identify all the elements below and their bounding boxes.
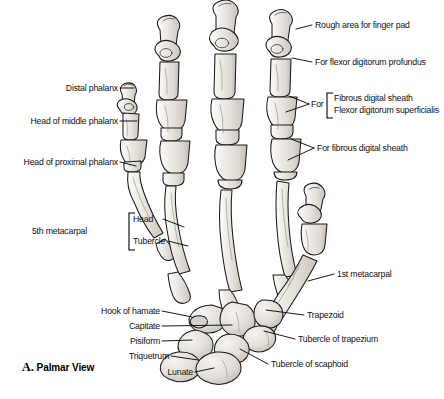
label-tubercle: Tubercle: [133, 236, 165, 247]
label-rough-area-for-finger-pad: Rough area for finger pad: [315, 20, 410, 31]
caption-text: Palmar View: [37, 362, 95, 373]
label-tubercle-of-scaphoid: Tubercle of scaphoid: [271, 359, 348, 370]
label-first-metacarpal: 1st metacarpal: [337, 269, 392, 280]
label-head-of-middle-phalanx: Head of middle phalanx: [6, 116, 118, 127]
label-for-flexor-digitorum-profundus: For flexor digitorum profundus: [315, 57, 426, 68]
label-head: Head: [133, 214, 153, 225]
label-pisiform: Pisiform: [8, 336, 160, 347]
label-for-prefix: For: [311, 99, 324, 110]
label-fibrous-digital-sheath: Fibrous digital sheath: [334, 93, 413, 104]
label-for-fibrous-digital-sheath: For fibrous digital sheath: [317, 143, 408, 154]
label-flexor-digitorum-superficialis: Flexor digitorum superficialis: [334, 105, 439, 116]
label-trapezoid: Trapezoid: [307, 310, 344, 321]
label-distal-phalanx: Distal phalanx: [6, 83, 118, 94]
label-head-of-proximal-phalanx: Head of proximal phalanx: [6, 157, 118, 168]
caption-letter: A.: [22, 360, 34, 374]
label-fifth-metacarpal: 5th metacarpal: [4, 226, 87, 237]
figure-caption: A. Palmar View: [22, 360, 94, 375]
label-hook-of-hamate: Hook of hamate: [8, 306, 160, 317]
label-tubercle-of-trapezium: Tubercle of trapezium: [298, 334, 378, 345]
label-capitate: Capitate: [8, 321, 160, 332]
figure-panel: Distal phalanx Head of middle phalanx He…: [0, 0, 444, 399]
